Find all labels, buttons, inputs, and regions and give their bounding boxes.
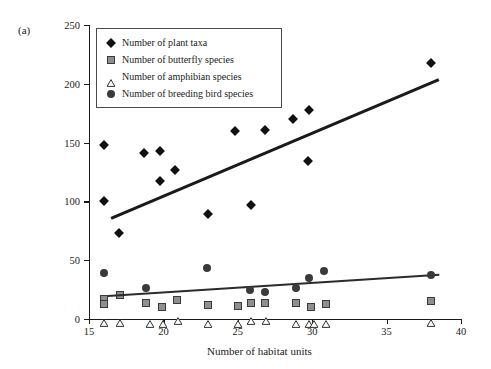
data-point-diamond <box>170 165 180 175</box>
y-tick-label: 200 <box>52 78 80 89</box>
legend-marker-circle-icon <box>104 87 118 101</box>
data-point-triangle <box>321 314 330 322</box>
data-point-triangle <box>309 314 318 322</box>
y-tick-label: 150 <box>52 137 80 148</box>
data-point-triangle <box>174 311 183 319</box>
x-tick <box>461 319 462 324</box>
data-point-triangle <box>116 313 125 321</box>
data-point-triangle <box>159 314 168 322</box>
data-point-diamond <box>260 125 270 135</box>
legend-item-square[interactable]: Number of butterfly species <box>104 51 275 68</box>
data-point-square <box>100 300 108 308</box>
legend-marker-square-icon <box>104 53 118 67</box>
data-point-triangle <box>99 313 108 321</box>
data-point-circle <box>305 274 313 282</box>
data-point-circle <box>427 271 435 279</box>
data-point-diamond <box>203 209 213 219</box>
data-point-square <box>173 296 181 304</box>
data-point-triangle <box>291 314 300 322</box>
data-point-circle <box>142 284 150 292</box>
chart-figure: (a) 152025303540 050100150200250 Number … <box>0 0 491 369</box>
data-point-triangle <box>247 311 256 319</box>
x-tick <box>89 319 90 324</box>
data-point-diamond <box>114 228 124 238</box>
legend-item-diamond[interactable]: Number of plant taxa <box>104 34 275 51</box>
x-axis-title: Number of habitat units <box>207 345 312 357</box>
data-point-circle <box>261 288 269 296</box>
data-point-diamond <box>155 146 165 156</box>
data-point-square <box>204 301 212 309</box>
legend-label: Number of breeding bird species <box>122 88 253 99</box>
data-point-square <box>292 299 300 307</box>
x-tick <box>387 319 388 324</box>
legend-marker-diamond-icon <box>104 36 118 50</box>
data-point-triangle <box>427 313 436 321</box>
data-point-diamond <box>139 148 149 158</box>
data-point-square <box>427 297 435 305</box>
legend-label: Number of butterfly species <box>122 54 234 65</box>
data-point-triangle <box>204 314 213 322</box>
data-point-square <box>247 299 255 307</box>
x-tick-label: 40 <box>456 326 467 337</box>
x-tick-label: 35 <box>381 326 392 337</box>
data-point-diamond <box>304 105 314 115</box>
legend-item-triangle[interactable]: Number of amphibian species <box>104 68 275 85</box>
data-point-square <box>307 303 315 311</box>
data-point-diamond <box>246 200 256 210</box>
legend-marker-triangle-icon <box>104 70 118 84</box>
data-point-diamond <box>155 176 165 186</box>
y-tick-label: 0 <box>52 314 80 325</box>
data-point-circle <box>320 267 328 275</box>
data-point-diamond <box>99 140 109 150</box>
data-point-diamond <box>303 156 313 166</box>
data-point-diamond <box>288 114 298 124</box>
data-point-triangle <box>146 314 155 322</box>
chart-legend: Number of plant taxaNumber of butterfly … <box>96 28 282 108</box>
y-tick <box>84 319 89 320</box>
data-point-circle <box>100 269 108 277</box>
trendline-1 <box>108 274 440 297</box>
y-tick-label: 250 <box>52 20 80 31</box>
data-point-diamond <box>426 58 436 68</box>
legend-item-circle[interactable]: Number of breeding bird species <box>104 85 275 102</box>
data-point-square <box>142 299 150 307</box>
legend-label: Number of amphibian species <box>122 71 242 82</box>
data-point-diamond <box>99 196 109 206</box>
data-point-circle <box>246 286 254 294</box>
data-point-triangle <box>233 314 242 322</box>
legend-label: Number of plant taxa <box>122 37 207 48</box>
data-point-square <box>234 302 242 310</box>
x-tick-label: 15 <box>84 326 95 337</box>
data-point-diamond <box>230 126 240 136</box>
data-point-circle <box>292 284 300 292</box>
data-point-square <box>322 300 330 308</box>
data-point-triangle <box>262 311 271 319</box>
y-tick-label: 50 <box>52 255 80 266</box>
data-point-square <box>261 299 269 307</box>
data-point-circle <box>203 264 211 272</box>
y-tick-label: 100 <box>52 196 80 207</box>
panel-label: (a) <box>18 24 30 36</box>
data-point-square <box>158 303 166 311</box>
